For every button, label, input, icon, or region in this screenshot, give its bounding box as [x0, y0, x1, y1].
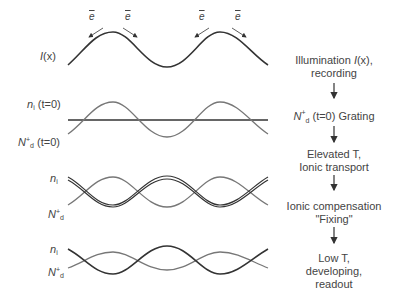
electron-label: e	[199, 11, 205, 22]
electron-label: e	[235, 11, 241, 22]
intensity-curve	[68, 32, 268, 67]
ni-label-4: ni	[50, 243, 58, 256]
step-fixing: Ionic compensation"Fixing"	[278, 200, 390, 226]
electron-arrow	[123, 28, 137, 37]
electron-label: e	[89, 11, 95, 22]
nd-label-4: N+d	[48, 266, 64, 279]
step-grating: N+d (t=0) Grating	[278, 106, 390, 127]
nd-label-3: N+d	[48, 208, 64, 221]
step-ionic-transport: Elevated T,Ionic transport	[278, 148, 390, 174]
step-illumination: Illumination I(x),recording	[278, 54, 390, 80]
ni-curve-3a	[68, 176, 268, 205]
nd-t0-label: N+d (t=0)	[18, 136, 60, 149]
intensity-label: I(x)	[40, 50, 56, 62]
step-readout: Low T,developing,readout	[278, 252, 390, 291]
electron-label: e	[125, 11, 131, 22]
electron-arrow	[195, 28, 209, 37]
ni-t0-label: ni (t=0)	[27, 98, 61, 111]
nd-curve-4	[68, 252, 268, 270]
ni-label-3: ni	[50, 172, 58, 185]
